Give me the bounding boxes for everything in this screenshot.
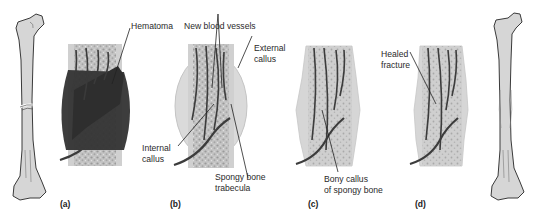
healed-femur-illustration: [491, 13, 524, 200]
label-hematoma: Hematoma: [131, 21, 173, 31]
fractured-femur-illustration: [13, 14, 46, 200]
label-bony-callus-line2: of spongy bone: [324, 185, 383, 195]
panel-d-healed: [410, 46, 468, 166]
panel-c-bony-callus: [296, 46, 360, 172]
panel-b-callus: [174, 14, 252, 178]
panel-label-a: (a): [60, 199, 70, 209]
panel-a-hematoma: [60, 28, 130, 166]
panel-label-d: (d): [415, 199, 426, 209]
label-external-callus-line1: External: [254, 43, 286, 53]
fracture-healing-diagram: Hematoma New blood vessels External call…: [0, 0, 535, 221]
panel-label-c: (c): [308, 199, 318, 209]
diagram-artwork: [0, 0, 535, 221]
label-spongy-bone-line2: trabecula: [215, 183, 250, 193]
label-bony-callus-line1: Bony callus: [324, 174, 368, 184]
label-healed-fracture-line2: fracture: [381, 60, 410, 70]
label-internal-callus-line1: Internal: [142, 143, 171, 153]
label-internal-callus-line2: callus: [142, 154, 164, 164]
label-new-blood-vessels: New blood vessels: [184, 21, 256, 31]
label-healed-fracture-line1: Healed: [381, 49, 408, 59]
label-external-callus-line2: callus: [254, 54, 276, 64]
panel-label-b: (b): [170, 199, 181, 209]
label-spongy-bone-line1: Spongy bone: [215, 172, 266, 182]
